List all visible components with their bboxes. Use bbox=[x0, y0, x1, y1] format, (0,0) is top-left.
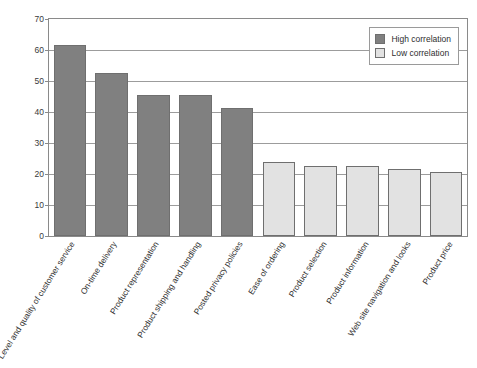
legend-label-low-correlation: Low correlation bbox=[391, 49, 449, 58]
plot-area: 010203040506070 High correlation Low cor… bbox=[48, 18, 468, 237]
legend-label-high-correlation: High correlation bbox=[391, 35, 451, 44]
y-axis-tick-label: 0 bbox=[39, 232, 44, 241]
legend-item-low-correlation: Low correlation bbox=[375, 46, 451, 60]
x-axis-tick-label: Ease of ordering bbox=[247, 240, 286, 296]
y-axis-tick-label: 50 bbox=[35, 77, 44, 86]
x-axis-tick-label: Product price bbox=[421, 240, 454, 286]
bar-slot bbox=[300, 19, 342, 236]
x-axis-tick-label: On-time delivery bbox=[79, 240, 118, 296]
y-axis-tick-label: 60 bbox=[35, 46, 44, 55]
bar-slot bbox=[49, 19, 91, 236]
bar[interactable] bbox=[95, 73, 128, 236]
bar-slot bbox=[216, 19, 258, 236]
bar[interactable] bbox=[179, 95, 212, 236]
legend-swatch-high-correlation-icon bbox=[375, 34, 385, 44]
bar[interactable] bbox=[388, 169, 421, 236]
x-axis-tick-label: Posted privacy policies bbox=[192, 240, 244, 316]
y-axis-tick-label: 70 bbox=[35, 15, 44, 24]
bar-slot bbox=[91, 19, 133, 236]
x-axis-tick-label: Level and quality of customer service bbox=[0, 240, 76, 360]
y-axis-tick-label: 20 bbox=[35, 170, 44, 179]
x-axis-tick-label: Product information bbox=[325, 240, 370, 305]
bar[interactable] bbox=[137, 95, 170, 236]
bar[interactable] bbox=[304, 166, 337, 236]
chart-legend: High correlation Low correlation bbox=[369, 27, 459, 65]
x-axis-category-labels: Level and quality of customer serviceOn-… bbox=[48, 240, 468, 366]
bar[interactable] bbox=[263, 162, 296, 236]
bar-chart: 010203040506070 High correlation Low cor… bbox=[0, 0, 477, 368]
legend-item-high-correlation: High correlation bbox=[375, 32, 451, 46]
bar[interactable] bbox=[430, 172, 463, 236]
bar-slot bbox=[133, 19, 175, 236]
x-axis-tick-label: Product selection bbox=[287, 240, 328, 298]
bar[interactable] bbox=[346, 166, 379, 236]
y-axis-tick-mark bbox=[45, 236, 49, 237]
bar[interactable] bbox=[54, 45, 87, 236]
bar-slot bbox=[258, 19, 300, 236]
y-axis-tick-label: 30 bbox=[35, 139, 44, 148]
legend-swatch-low-correlation-icon bbox=[375, 48, 385, 58]
bar-slot bbox=[174, 19, 216, 236]
y-axis-tick-label: 40 bbox=[35, 108, 44, 117]
bar[interactable] bbox=[221, 108, 254, 236]
y-axis-tick-label: 10 bbox=[35, 201, 44, 210]
